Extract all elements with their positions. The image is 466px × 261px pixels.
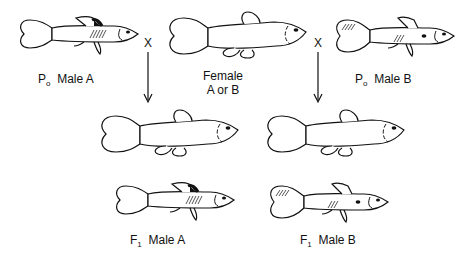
arrow-down-right-icon <box>313 52 323 104</box>
label-p0-male-b: Po Male B <box>355 72 412 88</box>
label-female: Female A or B <box>203 69 243 97</box>
label-f1-male-b: F1 Male B <box>300 233 356 249</box>
fish-f1-female-a <box>96 108 246 160</box>
fish-p0-male-a <box>14 12 144 60</box>
fish-f1-male-a <box>110 178 240 226</box>
label-p0-male-a: Po Male A <box>38 72 94 88</box>
fish-p0-male-b <box>330 14 460 62</box>
cross-symbol-left: X <box>144 36 152 50</box>
fish-female <box>164 10 314 62</box>
fish-f1-male-b <box>264 180 394 228</box>
fish-f1-female-b <box>262 108 412 160</box>
cross-symbol-right: X <box>314 36 322 50</box>
arrow-down-left-icon <box>143 52 153 104</box>
label-f1-male-a: F1 Male A <box>130 233 185 249</box>
